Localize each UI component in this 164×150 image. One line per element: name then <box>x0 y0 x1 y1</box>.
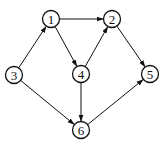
edge-1-to-4 <box>55 26 77 66</box>
graph-diagram: 123456 <box>0 0 164 150</box>
node-1: 1 <box>43 11 60 28</box>
node-5: 5 <box>142 66 159 83</box>
node-label: 5 <box>147 67 154 82</box>
node-label: 3 <box>11 68 18 83</box>
node-label: 4 <box>78 67 85 82</box>
node-2: 2 <box>104 11 121 28</box>
edge-6-to-5 <box>88 80 143 125</box>
node-3: 3 <box>6 67 23 84</box>
edge-2-to-5 <box>117 26 145 67</box>
node-label: 1 <box>48 12 55 27</box>
node-4: 4 <box>73 66 90 83</box>
edge-3-to-6 <box>21 80 74 124</box>
edge-4-to-2 <box>85 27 107 67</box>
edge-3-to-1 <box>19 27 46 68</box>
node-label: 6 <box>78 123 85 138</box>
node-label: 2 <box>109 12 116 27</box>
nodes-layer: 123456 <box>6 11 159 139</box>
node-6: 6 <box>73 122 90 139</box>
